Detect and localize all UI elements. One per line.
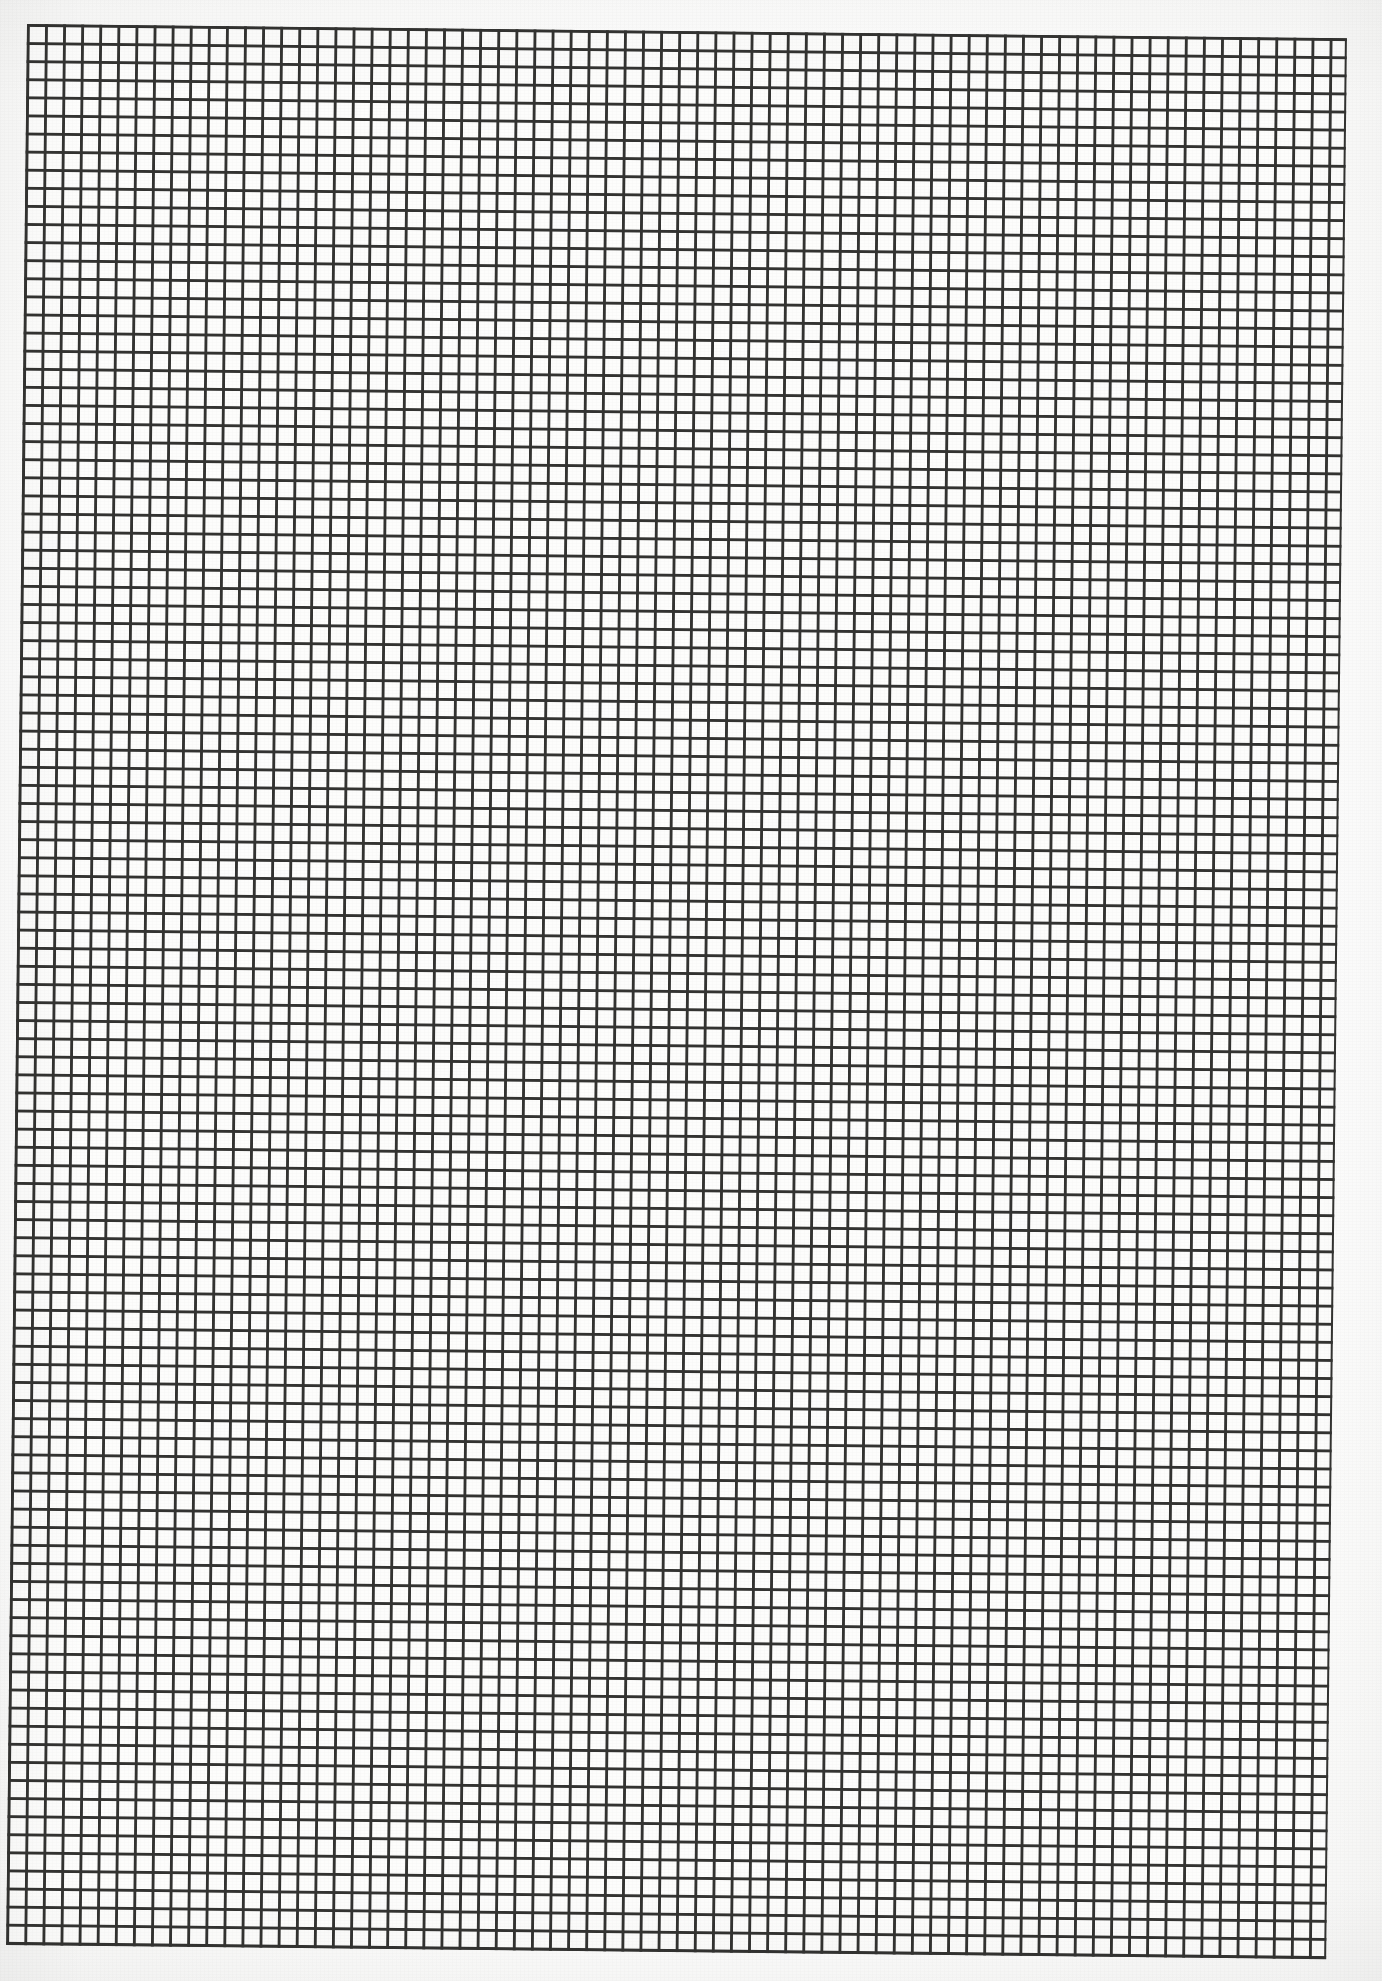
page-canvas <box>0 0 1382 1981</box>
graph-paper-sheet <box>6 24 1347 1959</box>
grid-lines <box>6 24 1347 1959</box>
